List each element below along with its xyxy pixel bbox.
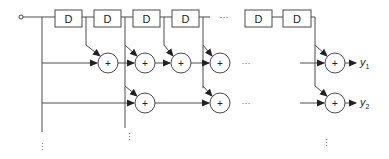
adder-r2-2: + — [210, 93, 230, 113]
output-label-y1: y1 — [359, 56, 370, 70]
svg-text:+: + — [332, 58, 338, 69]
adder-r2-out: + — [325, 93, 345, 113]
vertical-ellipsis-left: ⋮ — [38, 142, 47, 152]
delay-line-diagram: D D D D ··· D D ⋮ ⋮ — [0, 0, 389, 159]
delay-label: D — [182, 13, 190, 25]
svg-text:+: + — [332, 98, 338, 109]
adder-r1-3: + — [171, 53, 191, 73]
delay-label: D — [255, 13, 263, 25]
delay-label: D — [104, 13, 112, 25]
adder-r1-out: + — [325, 53, 345, 73]
delay-label: D — [65, 13, 73, 25]
tap-wires — [86, 17, 327, 128]
delay-block-1: D — [55, 10, 82, 27]
svg-text:+: + — [105, 58, 111, 69]
delay-block-2: D — [94, 10, 121, 27]
svg-text:+: + — [142, 58, 148, 69]
horizontal-ellipsis-row-2: ··· — [242, 98, 251, 108]
input-terminal-icon — [19, 15, 23, 19]
delay-block-3: D — [133, 10, 160, 27]
vertical-ellipsis-right: ⋮ — [322, 138, 331, 148]
adder-r1-1: + — [98, 53, 118, 73]
svg-text:+: + — [178, 58, 184, 69]
delay-block-6: D — [283, 10, 311, 27]
output-label-y2: y2 — [359, 96, 370, 110]
horizontal-ellipsis-row-1: ··· — [242, 58, 251, 68]
delay-block-4: D — [172, 10, 199, 27]
adder-r2-1: + — [135, 93, 155, 113]
adder-r1-2: + — [135, 53, 155, 73]
delay-block-5: D — [245, 10, 272, 27]
delay-label: D — [293, 13, 301, 25]
delay-label: D — [143, 13, 151, 25]
adder-r1-4: + — [210, 53, 230, 73]
vertical-ellipsis-middle: ⋮ — [125, 132, 134, 142]
svg-text:+: + — [217, 58, 223, 69]
svg-text:+: + — [217, 98, 223, 109]
svg-text:+: + — [142, 98, 148, 109]
horizontal-ellipsis: ··· — [220, 12, 229, 22]
